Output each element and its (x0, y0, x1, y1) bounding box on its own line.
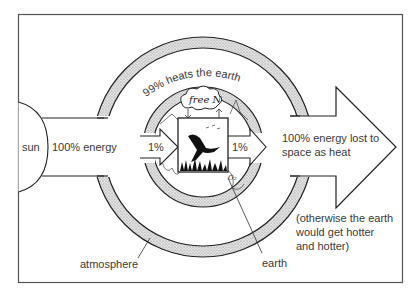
incoming-energy-label: 100% energy (52, 141, 117, 153)
energy-diagram: free N O₂ sun 100% energy 99% heats the … (0, 0, 418, 299)
sun-label: sun (22, 141, 40, 153)
atmosphere-leader-line (138, 238, 150, 258)
note-line3: and hotter) (296, 240, 349, 252)
n-up-arrow (216, 109, 222, 118)
one-percent-out-label: 1% (232, 141, 248, 153)
note-line2: would get hotter (295, 226, 375, 238)
free-n-label: free N (188, 94, 222, 105)
one-percent-in-label: 1% (148, 141, 164, 153)
outgoing-line2: space as heat (282, 146, 351, 158)
earth-label: earth (262, 257, 287, 269)
n-down-arrow (185, 109, 191, 118)
atmosphere-label: atmosphere (80, 258, 138, 270)
note-line1: (otherwise the earth (296, 212, 393, 224)
outgoing-line1: 100% energy lost to (282, 132, 379, 144)
